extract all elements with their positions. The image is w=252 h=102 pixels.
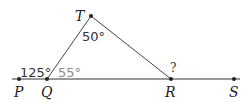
triangle-diagram: P Q R S T 125° 55° 50° ? [0,0,252,102]
label-t: T [75,8,86,24]
label-q: Q [41,84,53,100]
point-s [232,77,236,81]
angle-qtr-label: 50° [82,29,105,44]
angle-pqt-label: 125° [20,65,51,80]
label-p: P [13,84,24,100]
point-t [89,14,93,18]
label-r: R [164,84,176,100]
label-s: S [229,84,239,100]
angle-trs-label: ? [170,61,176,75]
point-r [169,77,173,81]
angle-tqr-label: 55° [58,65,81,80]
segment-tr [91,16,171,79]
